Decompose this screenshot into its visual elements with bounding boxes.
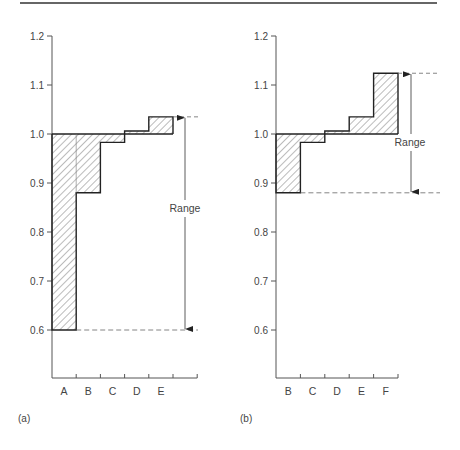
bar [374, 73, 398, 134]
y-tick-label: 0.7 [30, 276, 44, 287]
category-label: F [383, 385, 389, 397]
y-tick-label: 0.6 [30, 325, 44, 336]
y-tick-label: 0.7 [254, 276, 268, 287]
category-label: B [85, 385, 92, 397]
range-label: Range [170, 202, 201, 214]
y-tick-label: 1.0 [30, 129, 44, 140]
y-tick-label: 0.6 [254, 325, 268, 336]
y-tick-label: 1.2 [30, 31, 44, 42]
y-tick-label: 1.1 [30, 80, 44, 91]
range-label: Range [395, 136, 426, 148]
category-label: E [358, 385, 365, 397]
bar [149, 117, 173, 134]
y-tick-label: 1.1 [254, 80, 268, 91]
category-label: B [285, 385, 292, 397]
category-label: E [157, 385, 164, 397]
category-label: D [133, 385, 141, 397]
category-label: A [61, 385, 68, 397]
chart-panel-b: 0.60.70.80.91.01.11.2BCDEFRange [254, 31, 440, 398]
bar [300, 134, 324, 142]
category-label: C [309, 385, 317, 397]
y-tick-label: 0.8 [30, 227, 44, 238]
bar [276, 134, 300, 193]
bar [76, 134, 100, 193]
chart-panel-a: 0.60.70.80.91.01.11.2ABCDERange [30, 31, 201, 398]
category-label: D [333, 385, 341, 397]
y-tick-label: 0.9 [30, 178, 44, 189]
bar [349, 117, 373, 134]
category-label: C [109, 385, 117, 397]
y-tick-label: 1.0 [254, 129, 268, 140]
panel-label-b: (b) [240, 413, 252, 424]
panel-label-a: (a) [18, 413, 30, 424]
bar [100, 134, 124, 142]
y-tick-label: 0.9 [254, 178, 268, 189]
figure-canvas: 0.60.70.80.91.01.11.2ABCDERange 0.60.70.… [0, 0, 460, 450]
bar [52, 134, 76, 330]
y-tick-label: 1.2 [254, 31, 268, 42]
y-tick-label: 0.8 [254, 227, 268, 238]
